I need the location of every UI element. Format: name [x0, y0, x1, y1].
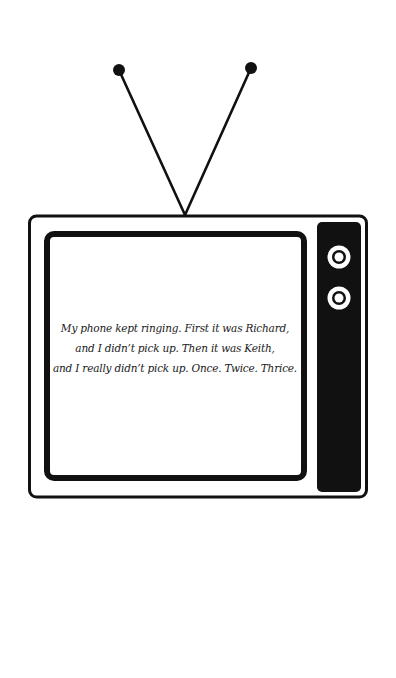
- antenna-icon: [113, 62, 257, 215]
- caption-line-1: My phone kept ringing. First it was Rich…: [52, 318, 298, 338]
- screen-caption: My phone kept ringing. First it was Rich…: [52, 318, 298, 378]
- knob-bottom-icon: [328, 287, 351, 310]
- antenna-ball-right: [245, 62, 257, 74]
- caption-line-3: and I really didn’t pick up. Once. Twice…: [52, 358, 298, 378]
- caption-line-2: and I didn’t pick up. Then it was Keith,: [52, 338, 298, 358]
- knob-top-icon: [328, 246, 351, 269]
- antenna-ball-left: [113, 64, 125, 76]
